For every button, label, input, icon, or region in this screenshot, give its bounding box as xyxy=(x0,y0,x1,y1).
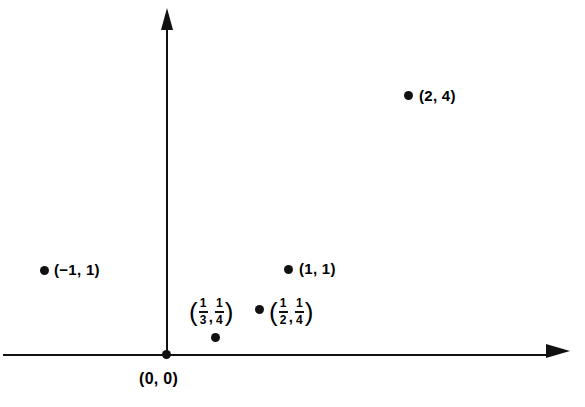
point-marker-third-quarter xyxy=(211,333,220,342)
point-marker-origin xyxy=(162,350,171,359)
point-label-1-1: (1, 1) xyxy=(299,261,336,276)
point-label-half-quarter: ( 1 2 , 1 4 ) xyxy=(268,297,315,326)
numerator: 1 xyxy=(279,297,288,310)
y-axis-line xyxy=(166,22,168,356)
point-marker-1-1 xyxy=(284,265,293,274)
close-paren: ) xyxy=(305,299,314,325)
x-axis-line xyxy=(3,354,548,356)
point-marker-2-4 xyxy=(404,91,413,100)
coordinate-plane-figure: (2, 4) (−1, 1) (1, 1) ( 1 2 , 1 4 ) ( 1 … xyxy=(0,0,585,407)
numerator: 1 xyxy=(199,297,208,310)
point-marker-neg1-1 xyxy=(40,266,49,275)
point-label-third-quarter: ( 1 3 , 1 4 ) xyxy=(188,297,235,326)
fraction-one-half: 1 2 xyxy=(279,297,288,326)
fraction-one-third: 1 3 xyxy=(199,297,208,326)
point-marker-half-quarter xyxy=(255,305,264,314)
denominator: 3 xyxy=(199,314,208,327)
open-paren: ( xyxy=(189,299,198,325)
denominator: 2 xyxy=(279,314,288,327)
point-label-neg1-1: (−1, 1) xyxy=(54,262,100,277)
point-label-origin: (0, 0) xyxy=(139,371,178,387)
numerator: 1 xyxy=(295,297,304,310)
numerator: 1 xyxy=(215,297,224,310)
comma: , xyxy=(289,309,293,326)
x-axis-arrow-icon xyxy=(546,344,570,358)
fraction-one-quarter: 1 4 xyxy=(295,297,304,326)
comma: , xyxy=(209,309,213,326)
close-paren: ) xyxy=(225,299,234,325)
denominator: 4 xyxy=(295,314,304,327)
y-axis-arrow-icon xyxy=(161,8,173,30)
fraction-one-quarter: 1 4 xyxy=(215,297,224,326)
open-paren: ( xyxy=(269,299,278,325)
point-label-2-4: (2, 4) xyxy=(419,88,456,103)
denominator: 4 xyxy=(215,314,224,327)
